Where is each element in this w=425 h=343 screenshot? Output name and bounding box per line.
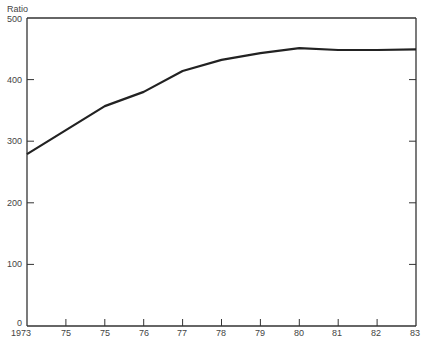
x-axis-ticks	[66, 319, 377, 326]
line-chart	[0, 0, 425, 343]
y-axis-ticks	[27, 80, 416, 265]
ratio-line	[27, 48, 416, 154]
plot-frame	[27, 18, 416, 326]
